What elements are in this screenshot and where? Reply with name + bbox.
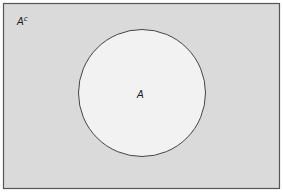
venn-diagram: Ac A (0, 0, 283, 193)
set-a-label: A (136, 89, 144, 100)
